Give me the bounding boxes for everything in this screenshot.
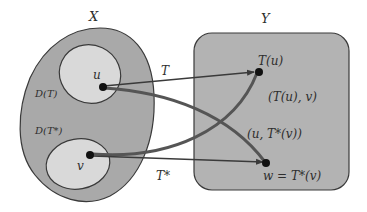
domain-t-label: D(T) [35, 89, 58, 99]
point-v [86, 151, 94, 159]
point-w [262, 159, 270, 167]
domain-t-star-label: D(T*) [35, 126, 63, 136]
diagram-canvas: X Y D(T) D(T*) u v T T* T(u) (T(u), v) (… [0, 0, 367, 212]
point-w-label: w = T*(v) [263, 170, 321, 182]
arrow-t-label: T [161, 65, 169, 77]
point-Tu-label: T(u) [258, 55, 283, 67]
point-u-label: u [93, 69, 101, 81]
pair-Tu-v-label: (T(u), v) [268, 91, 317, 103]
point-v-label: v [77, 160, 84, 172]
set-y-label: Y [261, 12, 270, 25]
set-x-label: X [89, 10, 98, 23]
pair-u-Tstar-v-label: (u, T*(v)) [247, 128, 302, 140]
arrow-t-star-label: T* [156, 170, 170, 182]
point-Tu [255, 68, 263, 76]
point-u [99, 83, 107, 91]
